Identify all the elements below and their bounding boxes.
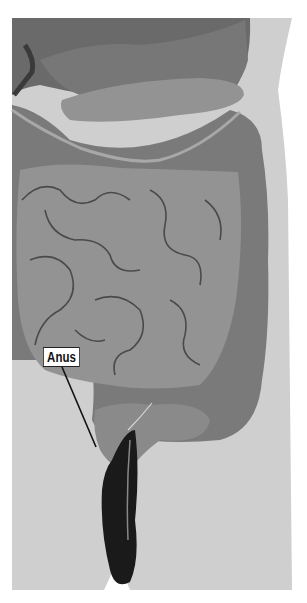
label-anus: Anus: [43, 347, 80, 367]
anatomy-illustration: [0, 0, 307, 603]
